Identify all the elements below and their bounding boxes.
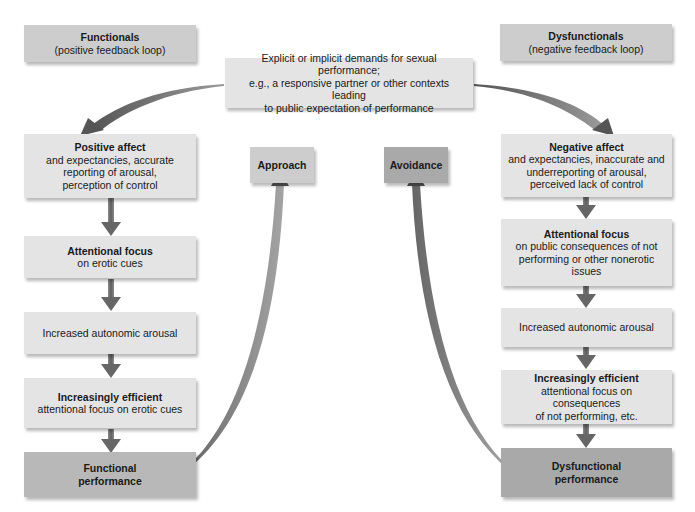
attentional-focus-title: Attentional focus	[67, 245, 153, 258]
approach-label: Approach	[257, 159, 306, 172]
increased-arousal-right-box: Increased autonomic arousal	[501, 308, 672, 347]
box-text: performance	[78, 475, 142, 488]
box-text: attentional focus on consequences	[507, 385, 666, 410]
arrow-dysfunctional-to-avoidance	[407, 171, 510, 470]
arrow-functional-to-approach	[186, 171, 289, 470]
arrow-demands-to-negative	[474, 84, 614, 136]
increasingly-efficient-title: Increasingly efficient	[534, 372, 638, 385]
box-text: reporting of arousal,	[63, 166, 156, 179]
functional-performance-box: Functional performance	[24, 452, 196, 497]
arrow-demands-to-positive	[80, 84, 224, 136]
box-text: performing or other nonerotic	[519, 253, 654, 266]
attentional-focus-consequences-box: Attentional focus on public consequences…	[501, 219, 672, 286]
avoidance-box: Avoidance	[384, 147, 448, 183]
negative-affect-title: Negative affect	[549, 141, 624, 154]
box-text: on erotic cues	[77, 257, 142, 270]
increasingly-efficient-title: Increasingly efficient	[58, 391, 162, 404]
demands-line-3: to public expectation of performance	[264, 102, 433, 115]
positive-affect-title: Positive affect	[74, 141, 145, 154]
box-text: issues	[572, 265, 602, 278]
increased-arousal-left-box: Increased autonomic arousal	[24, 312, 196, 354]
functionals-header: Functionals (positive feedback loop)	[24, 25, 196, 62]
demands-line-1: Explicit or implicit demands for sexual …	[231, 52, 467, 77]
dysfunctionals-header: Dysfunctionals (negative feedback loop)	[500, 24, 672, 61]
increasingly-efficient-right-box: Increasingly efficient attentional focus…	[501, 370, 672, 424]
demands-box: Explicit or implicit demands for sexual …	[225, 58, 473, 108]
functionals-title: Functionals	[81, 31, 140, 44]
box-text: Increased autonomic arousal	[519, 321, 654, 334]
dysfunctionals-title: Dysfunctionals	[548, 30, 623, 43]
dysfunctional-performance-title: Dysfunctional	[552, 460, 621, 473]
positive-affect-box: Positive affect and expectancies, accura…	[24, 134, 196, 198]
negative-affect-box: Negative affect and expectancies, inaccu…	[501, 134, 672, 197]
functional-performance-title: Functional	[83, 462, 136, 475]
box-text: Increased autonomic arousal	[43, 327, 178, 340]
increasingly-efficient-left-box: Increasingly efficient attentional focus…	[24, 378, 196, 428]
box-text: and expectancies, accurate	[46, 154, 174, 167]
box-text: perception of control	[62, 179, 157, 192]
dysfunctional-performance-box: Dysfunctional performance	[501, 448, 672, 497]
functionals-subtitle: (positive feedback loop)	[55, 44, 166, 57]
box-text: attentional focus on erotic cues	[38, 403, 183, 416]
box-text: perceived lack of control	[530, 178, 643, 191]
box-text: on public consequences of not	[516, 240, 658, 253]
box-text: underreporting of arousal,	[526, 166, 646, 179]
dysfunctionals-subtitle: (negative feedback loop)	[529, 43, 644, 56]
approach-box: Approach	[250, 147, 314, 183]
demands-line-2: e.g., a responsive partner or other cont…	[231, 77, 467, 102]
box-text: and expectancies, inaccurate and	[508, 153, 664, 166]
avoidance-label: Avoidance	[390, 159, 443, 172]
box-text: performance	[555, 473, 619, 486]
box-text: of not performing, etc.	[535, 410, 637, 423]
attentional-focus-title: Attentional focus	[544, 228, 630, 241]
attentional-focus-erotic-box: Attentional focus on erotic cues	[24, 236, 196, 278]
